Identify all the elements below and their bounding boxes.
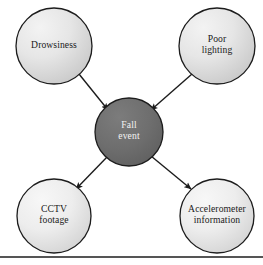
node-group [16, 8, 255, 253]
node-circle-cctv-footage[interactable] [17, 179, 91, 253]
edge-poor-lighting-to-fall [151, 74, 192, 110]
edge-fall-to-cctv [76, 156, 108, 189]
node-circle-fall-event[interactable] [95, 98, 163, 166]
edge-drowsiness-to-fall [79, 74, 108, 110]
diagram-graphics [0, 0, 263, 265]
node-circle-poor-lighting[interactable] [179, 8, 255, 84]
node-circle-accelerometer-information[interactable] [180, 179, 254, 253]
diagram-canvas: Drowsiness Poor lighting Fall event CCTV… [0, 0, 263, 265]
edge-fall-to-accelerometer [151, 156, 191, 189]
node-circle-drowsiness[interactable] [16, 8, 92, 84]
